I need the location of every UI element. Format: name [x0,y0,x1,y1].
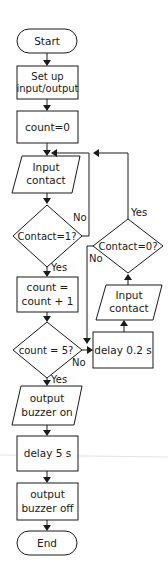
delay-short-label: delay 0.2 s [94,344,152,356]
buzzer-on-line2: buzzer on [21,406,73,418]
input2-label-line2: contact [109,302,148,314]
flowchart-canvas: Start Set up input/output count=0 Input … [0,0,168,565]
start-terminator: Start [17,29,77,53]
arrow-down-icon [43,525,51,531]
init-count-box: count=0 [17,111,78,143]
arrow-down-icon [43,60,51,66]
arrow-left-icon [93,149,99,157]
decision-contact-0: Contact=0? [93,219,163,273]
arrow-down-icon [43,316,51,322]
arrow-up-icon [120,320,128,326]
arrow-down-icon [83,338,91,344]
input2-label-line1: Input [115,289,142,301]
decision-contact-1: Contact=1? [13,205,82,267]
increment-label-line1: count = [27,281,69,293]
decision2-label: count = 5? [19,345,74,356]
delay-long-box: delay 5 s [17,436,78,471]
arrow-down-icon [43,380,51,386]
decision2-no-label: No [72,357,86,368]
input1-label-line1: Input [32,161,59,173]
increment-count-box: count = count + 1 [17,277,78,312]
decision3-no-label: No [89,253,103,264]
arrow-down-icon [43,271,51,277]
arrow-down-icon [43,198,51,204]
arrow-right-icon [87,346,93,354]
buzzer-off-box: output buzzer off [17,483,78,520]
decision3-yes-label: Yes [130,207,147,218]
arrow-down-icon [43,150,51,156]
arrow-down-icon [43,430,51,436]
input-contact-2-parallelogram: Input contact [96,285,162,320]
increment-label-line2: count + 1 [22,295,74,307]
buzzer-on-parallelogram: output buzzer on [12,386,82,425]
buzzer-off-line1: output [30,488,65,500]
decision2-yes-label: Yes [50,374,67,385]
decision1-label: Contact=1? [18,231,77,242]
setup-label-line2: input/output [16,83,78,94]
init-count-label: count=0 [25,121,70,133]
end-terminator: End [17,531,77,555]
decision-count-5: count = 5? [13,322,82,378]
decision3-label: Contact=0? [99,241,158,252]
arrow-down-icon [43,477,51,483]
delay-short-box: delay 0.2 s [93,332,153,368]
decision1-no-label: No [73,212,87,223]
start-label: Start [34,35,60,47]
decision1-yes-label: Yes [50,262,67,273]
setup-label-line1: Set up [31,71,63,82]
arrow-down-icon [43,105,51,111]
arrow-up-icon [124,274,132,280]
input-contact-parallelogram: Input contact [12,156,80,193]
input1-label-line2: contact [26,174,65,186]
delay-long-label: delay 5 s [24,447,72,459]
setup-process-box: Set up input/output [16,66,78,99]
buzzer-off-line2: buzzer off [21,502,74,514]
end-label: End [37,537,57,549]
buzzer-on-line1: output [30,392,65,404]
